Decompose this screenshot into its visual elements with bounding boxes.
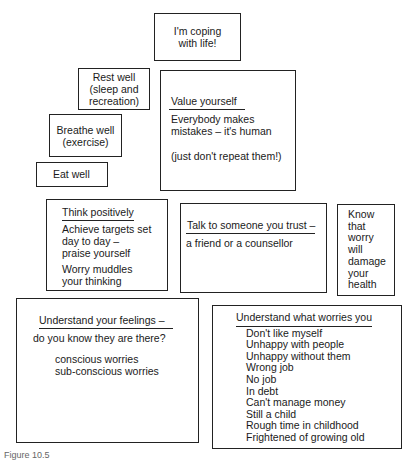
know-worry-line: Know [348,209,394,221]
value-yourself-line: Everybody makes [171,113,295,125]
goal-text-line: I'm coping [174,25,222,37]
breathe-well-box: Breathe well (exercise) [49,114,122,157]
know-worry-box: Know that worry will damage your health [337,204,395,296]
think-positively-box: Think positively Achieve targets set day… [46,199,168,291]
worries-list: Don't like myself Unhappy with people Un… [236,328,401,444]
think-positively-line: praise yourself [62,247,167,259]
talk-heading: Talk to someone you trust – [186,219,315,234]
value-yourself-heading: Value yourself [169,95,245,110]
rest-well-line: (sleep and [89,83,138,95]
talk-to-someone-box: Talk to someone you trust – a friend or … [180,203,327,293]
goal-box: I'm coping with life! [154,13,241,61]
know-worry-line: damage [348,256,394,268]
rest-well-line: Rest well [93,71,136,83]
rest-well-line: recreation) [89,95,139,107]
value-yourself-box: Value yourself Everybody makes mistakes … [160,70,296,191]
think-positively-line: your thinking [62,275,167,287]
understand-worries-heading: Understand what worries you [236,312,372,327]
value-yourself-line: mistakes – it's human [171,125,295,137]
breathe-well-line: Breathe well [57,124,115,136]
talk-line: a friend or a counsellor [186,237,326,249]
worries-item: No job [246,374,401,386]
know-worry-line: health [348,279,394,291]
feelings-item: sub-conscious worries [39,365,198,377]
feelings-item: conscious worries [39,353,198,365]
think-positively-heading: Think positively [62,206,134,221]
understand-feelings-subheading: do you know they are there? [33,332,198,344]
breathe-well-line: (exercise) [62,136,108,148]
eat-well-line: Eat well [53,168,107,180]
worries-item: Can't manage money [246,397,401,409]
spacer [171,137,295,150]
understand-feelings-box: Understand your feelings – do you know t… [16,298,199,443]
figure-caption: Figure 10.5 [4,450,50,460]
goal-text-line: with life! [179,37,217,49]
think-positively-line: Achieve targets set [62,223,167,235]
rest-well-box: Rest well (sleep and recreation) [78,68,150,110]
understand-feelings-heading: Understand your feelings – [39,314,173,329]
understand-worries-box: Understand what worries you Don't like m… [212,305,402,449]
spacer [39,344,198,353]
eat-well-box: Eat well [36,162,108,187]
value-yourself-note: (just don't repeat them!) [171,150,295,162]
think-positively-line: day to day – [62,235,167,247]
worries-item: Frightened of growing old [246,432,401,444]
think-positively-line: Worry muddles [62,263,167,275]
